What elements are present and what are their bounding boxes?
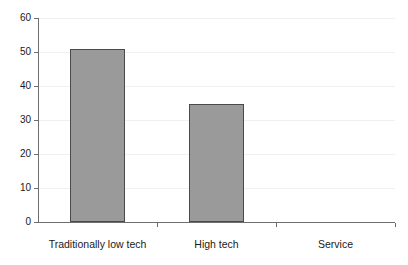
y-axis-tick-mark xyxy=(34,86,38,87)
y-axis-line xyxy=(38,18,39,222)
y-axis-tick-label: 50 xyxy=(0,47,31,57)
x-axis-category-label: Traditionally low tech xyxy=(49,238,147,250)
bar xyxy=(189,104,245,222)
y-axis-tick-label: 20 xyxy=(0,149,31,159)
y-axis-tick-label: 0 xyxy=(0,217,31,227)
y-axis-tick-mark xyxy=(34,188,38,189)
x-axis-category-label: High tech xyxy=(194,238,238,250)
y-axis-tick-label: 10 xyxy=(0,183,31,193)
x-axis-tick-mark xyxy=(276,223,277,227)
plot-area xyxy=(38,18,395,222)
bar-chart: 0102030405060 Traditionally low techHigh… xyxy=(0,0,408,265)
x-axis-category-label: Service xyxy=(318,238,353,250)
x-axis-tick-mark xyxy=(395,223,396,227)
x-axis-line xyxy=(38,222,395,223)
y-axis-tick-label: 30 xyxy=(0,115,31,125)
y-axis-tick-label: 40 xyxy=(0,81,31,91)
y-axis-tick-mark xyxy=(34,52,38,53)
y-axis-tick-mark xyxy=(34,18,38,19)
bar xyxy=(70,49,126,222)
gridline xyxy=(38,18,395,19)
y-axis-tick-mark xyxy=(34,120,38,121)
y-axis-tick-mark xyxy=(34,222,38,223)
y-axis-tick-mark xyxy=(34,154,38,155)
y-axis-tick-label: 60 xyxy=(0,13,31,23)
x-axis-tick-mark xyxy=(157,223,158,227)
